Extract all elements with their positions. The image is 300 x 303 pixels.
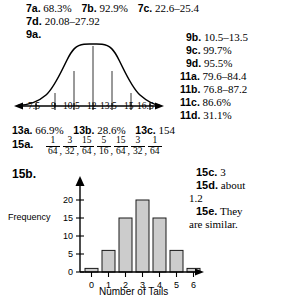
answer-value-11b: 76.8–87.2 bbox=[203, 83, 247, 95]
fraction-3: 516 bbox=[97, 136, 111, 157]
fraction-1: 332 bbox=[63, 136, 77, 157]
bar-2 bbox=[119, 218, 132, 272]
answer-row-9b: 9b. 10.5–13.5 bbox=[186, 31, 248, 44]
fraction-4: 1564 bbox=[114, 136, 128, 157]
answer-value-7d: 20.08–27.92 bbox=[45, 15, 100, 27]
answer-label-15e: 15e. bbox=[196, 205, 217, 217]
x-tick-5: 5 bbox=[174, 280, 179, 290]
fraction-6-denominator: 64 bbox=[148, 146, 162, 157]
normal-curve-path bbox=[18, 44, 160, 106]
normal-curve-tick-6: 16.5 bbox=[137, 101, 154, 111]
fraction-2-denominator: 64 bbox=[80, 146, 94, 157]
y-tick-0: 0 bbox=[68, 267, 73, 277]
fraction-2-numerator: 15 bbox=[80, 136, 94, 146]
answer-label-15c: 15c. bbox=[196, 166, 217, 178]
answer-value-13c: 154 bbox=[158, 124, 175, 136]
x-tick-0: 0 bbox=[89, 280, 94, 290]
fraction-5-denominator: 32 bbox=[131, 146, 145, 157]
normal-curve-tick-5: 15 bbox=[124, 101, 134, 111]
fraction-6-numerator: 1 bbox=[150, 136, 159, 146]
bar-4 bbox=[153, 218, 166, 272]
answer-label-7b: 7b. bbox=[82, 2, 97, 14]
answer-row-15a: 15a. bbox=[12, 138, 33, 150]
answer-label-11b: 11b. bbox=[180, 83, 200, 95]
answer-value-15e: They bbox=[220, 205, 243, 217]
bar-chart-y-axis-label: Frequency bbox=[8, 212, 51, 222]
fraction-0-numerator: 1 bbox=[48, 136, 57, 146]
normal-curve-vertical-lines bbox=[36, 46, 150, 106]
answer-row-11d: 11d. 31.1% bbox=[180, 109, 232, 122]
answer-value-15e-line2: are similar. bbox=[189, 218, 238, 230]
answer-value-9d: 95.5% bbox=[204, 57, 232, 69]
answer-item-13a: 13a. 66.9% bbox=[12, 124, 64, 136]
answer-label-15d: 15d. bbox=[196, 179, 218, 191]
answer-value-7c: 22.6–25.4 bbox=[155, 2, 199, 14]
answer-value-11c: 86.6% bbox=[203, 96, 231, 108]
y-tick-5: 5 bbox=[68, 249, 73, 259]
answer-value-15d: about bbox=[221, 179, 245, 191]
answer-label-7d: 7d. bbox=[26, 15, 42, 27]
fraction-list-15a: 164, 332, 1564, 516, 1564, 332, 164 bbox=[46, 136, 162, 157]
y-axis-arrow bbox=[76, 176, 85, 186]
bar-1 bbox=[102, 250, 115, 272]
answer-label-9b: 9b. bbox=[186, 31, 201, 43]
fraction-0: 164 bbox=[46, 136, 60, 157]
y-tick-15: 15 bbox=[63, 213, 73, 223]
answer-value-15d-line2: 1.2 bbox=[189, 192, 203, 204]
normal-curve-tick-2: 10.5 bbox=[63, 101, 80, 111]
answer-label-7c: 7c. bbox=[138, 2, 153, 14]
answer-row-7-top: 7a. 68.3% 7b. 92.9% 7c. 22.6–25.4 bbox=[26, 2, 206, 14]
fraction-2: 1564 bbox=[80, 136, 94, 157]
answer-label-15b: 15b. bbox=[12, 167, 36, 181]
fraction-4-denominator: 64 bbox=[114, 146, 128, 157]
y-tick-20: 20 bbox=[63, 195, 73, 205]
fraction-6: 164 bbox=[148, 136, 162, 157]
answer-value-15e-cont: are similar. bbox=[189, 218, 238, 231]
answer-row-11b: 11b. 76.8–87.2 bbox=[180, 83, 247, 96]
answer-label-15a: 15a. bbox=[12, 138, 33, 150]
normal-curve-tick-1: 9 bbox=[51, 101, 56, 111]
frequency-bar-chart: 0 5 10 15 20 bbox=[54, 176, 204, 302]
fraction-3-numerator: 5 bbox=[99, 136, 108, 146]
answer-row-15b: 15b. bbox=[12, 168, 36, 180]
bar-3 bbox=[136, 200, 149, 272]
answer-value-9c: 99.7% bbox=[203, 44, 231, 56]
answer-row-15e: 15e. They bbox=[196, 205, 243, 218]
answer-row-7d: 7d. 20.08–27.92 bbox=[26, 15, 100, 27]
answer-value-7a: 68.3% bbox=[43, 2, 71, 14]
answer-value-15d-cont: 1.2 bbox=[189, 192, 203, 205]
bar-5 bbox=[170, 250, 183, 272]
fraction-1-denominator: 32 bbox=[63, 146, 77, 157]
answer-key-page: 7a. 68.3% 7b. 92.9% 7c. 22.6–25.4 7d. 20… bbox=[0, 0, 300, 303]
answer-row-15c: 15c. 3 bbox=[196, 166, 226, 179]
fraction-1-numerator: 3 bbox=[65, 136, 74, 146]
answer-item-7b: 7b. 92.9% bbox=[82, 2, 128, 14]
bar-chart-y-tick-labels: 0 5 10 15 20 bbox=[63, 195, 73, 277]
answer-item-7a: 7a. 68.3% bbox=[26, 2, 72, 14]
answer-value-11a: 79.6–84.4 bbox=[203, 70, 247, 82]
bar-chart-x-axis-label: Number of Tails bbox=[99, 286, 168, 297]
answer-value-7b: 92.9% bbox=[99, 2, 127, 14]
answer-row-15d: 15d. about bbox=[196, 179, 245, 192]
answer-label-9c: 9c. bbox=[186, 44, 201, 56]
normal-curve-tick-0: 7.5 bbox=[28, 101, 40, 111]
x-tick-6: 6 bbox=[191, 280, 196, 290]
answer-value-11d: 31.1% bbox=[203, 109, 231, 121]
answer-row-9c: 9c. 99.7% bbox=[186, 44, 232, 57]
answer-label-7a: 7a. bbox=[26, 2, 41, 14]
answer-label-11c: 11c. bbox=[180, 96, 200, 108]
normal-curve-tick-4: 13.5 bbox=[100, 101, 117, 111]
bar-chart-y-axis: 0 5 10 15 20 bbox=[63, 176, 85, 277]
normal-curve-tick-labels: 7.5 9 10.5 12 13.5 15 16.5 bbox=[12, 101, 172, 115]
bar-chart-bars bbox=[85, 200, 200, 272]
normal-curve-tick-3: 12 bbox=[87, 101, 97, 111]
fraction-5: 332 bbox=[131, 136, 145, 157]
answer-label-9d: 9d. bbox=[186, 57, 201, 69]
answer-label-11a: 11a. bbox=[180, 70, 200, 82]
answer-label-11d: 11d. bbox=[180, 109, 200, 121]
fraction-0-denominator: 64 bbox=[46, 146, 60, 157]
answer-value-9b: 10.5–13.5 bbox=[204, 31, 248, 43]
fraction-5-numerator: 3 bbox=[133, 136, 142, 146]
answer-row-11a: 11a. 79.6–84.4 bbox=[180, 70, 247, 83]
answer-value-15c: 3 bbox=[220, 166, 226, 178]
